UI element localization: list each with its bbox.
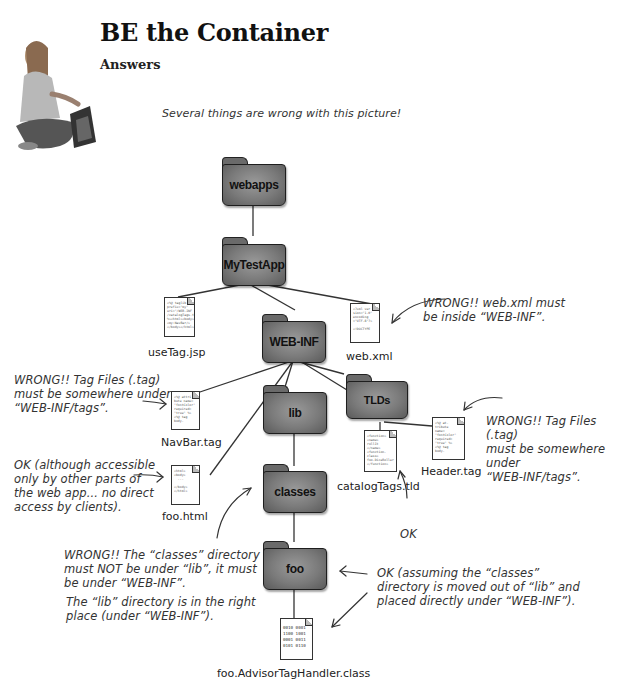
folder-icon: classes: [263, 471, 327, 513]
folder-icon: webapps: [222, 164, 286, 206]
folder-icon: MyTestApp: [222, 244, 286, 286]
folder-label: MyTestApp: [223, 258, 284, 272]
annotation-line: be under “WEB-INF”.: [64, 576, 260, 590]
folder-foo[interactable]: foo: [263, 541, 325, 587]
page-subtitle: Answers: [100, 57, 161, 72]
folder-web-inf[interactable]: WEB-INF: [262, 314, 324, 360]
filename-usetag-jsp: useTag.jsp: [148, 346, 205, 359]
folder-tlds[interactable]: TLDs: [346, 374, 406, 414]
folder-label: classes: [274, 485, 315, 499]
annotation-line: OK (although accessible: [14, 458, 155, 472]
folder-icon: lib: [263, 392, 327, 434]
file-icon-advisortaghandler-class[interactable]: 0010 0001 1100 1001 0001 0011 0101 0110: [280, 618, 313, 660]
folder-icon: foo: [263, 548, 327, 590]
file-icon-foo-html[interactable]: <html> <body> ... </body> </html>: [171, 465, 200, 505]
folder-lib[interactable]: lib: [263, 385, 325, 431]
meditating-person-illustration: [8, 18, 100, 160]
annotation-lib-ok: The “lib” directory is in the right plac…: [66, 595, 256, 623]
filename-catalogtags-tld: catalogTags.tld: [337, 480, 420, 493]
intro-text: Several things are wrong with this pictu…: [162, 107, 401, 121]
folder-icon: WEB-INF: [262, 321, 326, 363]
annotation-line: WRONG!! Tag Files (.tag): [486, 414, 632, 442]
annotation-line: place (under “WEB-INF”).: [66, 609, 256, 623]
annotation-line: WRONG!! Tag Files (.tag): [14, 373, 171, 387]
annotation-classes-wrong: WRONG!! The “classes” directory must NOT…: [64, 548, 260, 590]
folder-label: webapps: [229, 178, 278, 192]
folder-webapps[interactable]: webapps: [222, 157, 284, 203]
annotation-line: WRONG!! web.xml must: [423, 296, 565, 310]
annotation-line: “WEB-INF/tags”.: [486, 470, 632, 484]
annotation-line: only by other parts of: [14, 472, 155, 486]
annotation-foo-ok: OK (assuming the “classes” directory is …: [377, 566, 580, 608]
file-icon-navbar-tag[interactable]: <%@ attri bute name= "fontColor" require…: [171, 391, 200, 430]
folder-label: lib: [288, 406, 301, 420]
file-icon-header-tag[interactable]: <%@ at- tribute name= "fontColor" requir…: [432, 417, 465, 460]
folder-mytestapp[interactable]: MyTestApp: [222, 237, 284, 283]
filename-advisortaghandler-class: foo.AdvisorTagHandler.class: [217, 667, 370, 680]
annotation-line: be inside “WEB-INF”.: [423, 310, 565, 324]
filename-web-xml: web.xml: [346, 350, 393, 363]
annotation-line: access by clients).: [14, 500, 155, 514]
annotation-header-wrong: WRONG!! Tag Files (.tag) must be somewhe…: [486, 414, 632, 484]
annotation-line: WRONG!! The “classes” directory: [64, 548, 260, 562]
annotation-line: placed directly under “WEB-INF”).: [377, 594, 580, 608]
annotation-line: must NOT be under “lib”, it must: [64, 562, 260, 576]
filename-header-tag: Header.tag: [421, 465, 482, 478]
annotation-line: The “lib” directory is in the right: [66, 595, 256, 609]
annotation-line: must be somewhere under: [14, 387, 171, 401]
page-title: BE the Container: [100, 18, 328, 47]
annotation-line: “WEB-INF/tags”.: [14, 401, 171, 415]
file-icon-usetag-jsp[interactable]: <%@ taglib prefix="my" uri="/WEB-INF /ca…: [164, 297, 195, 337]
annotation-line: the web app... no direct: [14, 486, 155, 500]
annotation-webxml-wrong: WRONG!! web.xml must be inside “WEB-INF”…: [423, 296, 565, 324]
annotation-line: must be somewhere under: [486, 442, 632, 470]
filename-navbar-tag: NavBar.tag: [161, 436, 222, 449]
file-icon-catalogtags-tld[interactable]: <function> <name> rollIt </name> <functi…: [364, 430, 397, 472]
folder-icon: TLDs: [346, 381, 408, 419]
annotation-catalog-ok: OK: [400, 527, 417, 541]
filename-foo-html: foo.html: [162, 510, 208, 523]
annotation-navbar-wrong: WRONG!! Tag Files (.tag) must be somewhe…: [14, 373, 171, 415]
folder-label: foo: [286, 562, 304, 576]
file-icon-web-xml[interactable]: <?xml ver sion="1.0" encoding ="UTF-8"?>…: [350, 303, 380, 343]
annotation-line: OK (assuming the “classes”: [377, 566, 580, 580]
folder-label: TLDs: [364, 394, 390, 406]
annotation-foohtml-ok: OK (although accessible only by other pa…: [14, 458, 155, 514]
folder-label: WEB-INF: [269, 335, 318, 349]
annotation-line: directory is moved out of “lib” and: [377, 580, 580, 594]
folder-classes[interactable]: classes: [263, 464, 325, 510]
